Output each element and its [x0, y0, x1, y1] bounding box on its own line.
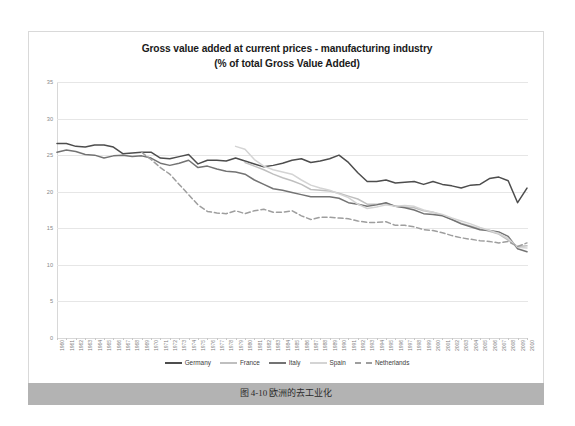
- x-axis-tick-label: 1965: [106, 340, 112, 351]
- x-axis-tick: [217, 338, 218, 340]
- x-axis-tick: [424, 338, 425, 340]
- series-lines: [57, 82, 528, 338]
- x-axis-tick-label: 1985: [294, 340, 300, 351]
- x-axis-tick-label: 2003: [463, 340, 469, 351]
- legend-swatch-spain: [310, 362, 327, 364]
- x-axis-tick: [471, 338, 472, 340]
- x-axis-tick-label: 1962: [78, 340, 84, 351]
- x-axis-tick: [254, 338, 255, 340]
- x-axis-tick-label: 1993: [369, 340, 375, 351]
- legend-swatch-germany: [165, 362, 182, 364]
- legend-label: Spain: [330, 359, 346, 366]
- x-axis-tick: [527, 338, 528, 340]
- x-axis-tick-label: 2008: [510, 340, 516, 351]
- x-axis-tick-label: 2007: [501, 340, 507, 351]
- chart-title: Gross value added at current prices - ma…: [29, 41, 545, 71]
- x-axis-tick: [123, 338, 124, 340]
- legend-swatch-france: [220, 362, 237, 364]
- legend-item-italy[interactable]: Italy: [269, 359, 301, 366]
- x-axis-tick-label: 1981: [257, 340, 263, 351]
- legend-label: Italy: [289, 359, 301, 366]
- x-axis-tick: [452, 338, 453, 340]
- x-axis-tick: [57, 338, 58, 340]
- x-axis-tick-label: 1964: [97, 340, 103, 351]
- x-axis-tick: [489, 338, 490, 340]
- x-axis-tick-label: 1967: [125, 340, 131, 351]
- y-axis-tick-label: 35: [47, 79, 53, 85]
- x-axis-tick-label: 1988: [322, 340, 328, 351]
- x-axis-tick: [113, 338, 114, 340]
- x-axis-tick-label: 2009: [520, 340, 526, 351]
- x-axis-tick-label: 1972: [172, 340, 178, 351]
- x-axis-tick: [433, 338, 434, 340]
- legend-item-france[interactable]: France: [220, 359, 260, 366]
- x-axis-tick: [151, 338, 152, 340]
- x-axis-tick-label: 1979: [238, 340, 244, 351]
- x-axis-tick: [76, 338, 77, 340]
- figure-caption: 图 4-10 欧洲的去工业化: [28, 386, 544, 399]
- x-axis-tick: [170, 338, 171, 340]
- x-axis-tick-label: 1994: [379, 340, 385, 351]
- x-axis-tick: [95, 338, 96, 340]
- x-axis-tick-label: 1970: [153, 340, 159, 351]
- x-axis-tick-label: 1986: [304, 340, 310, 351]
- legend-item-spain[interactable]: Spain: [310, 359, 346, 366]
- legend-label: Germany: [185, 359, 211, 366]
- x-axis-tick: [236, 338, 237, 340]
- x-axis-tick-label: 1977: [219, 340, 225, 351]
- legend-label: Netherlands: [375, 359, 409, 366]
- y-axis-tick-label: 5: [50, 298, 53, 304]
- legend-item-germany[interactable]: Germany: [165, 359, 211, 366]
- x-axis-tick-label: 1997: [407, 340, 413, 351]
- x-axis-tick-label: 1974: [191, 340, 197, 351]
- x-axis-tick-label: 1996: [398, 340, 404, 351]
- legend-label: France: [240, 359, 260, 366]
- x-axis-tick-label: 1963: [87, 340, 93, 351]
- x-axis-tick: [442, 338, 443, 340]
- y-axis-tick-label: 25: [47, 152, 53, 158]
- x-axis-tick: [330, 338, 331, 340]
- x-axis-tick: [301, 338, 302, 340]
- x-axis-tick: [386, 338, 387, 340]
- x-axis-tick: [311, 338, 312, 340]
- x-axis-tick: [518, 338, 519, 340]
- x-axis-tick: [207, 338, 208, 340]
- x-axis-tick: [339, 338, 340, 340]
- x-axis-tick-label: 1991: [351, 340, 357, 351]
- chart-title-line2: (% of total Gross Value Added): [29, 56, 545, 71]
- x-axis-tick: [292, 338, 293, 340]
- x-axis-tick-label: 1966: [116, 340, 122, 351]
- figure-container: Gross value added at current prices - ma…: [28, 31, 544, 392]
- x-axis-tick: [405, 338, 406, 340]
- x-axis-tick-label: 1992: [360, 340, 366, 351]
- series-line-netherlands: [142, 152, 527, 246]
- y-axis-tick-label: 10: [47, 262, 53, 268]
- x-axis-tick: [104, 338, 105, 340]
- x-axis-tick: [395, 338, 396, 340]
- x-axis-tick-label: 1975: [200, 340, 206, 351]
- x-axis-tick: [499, 338, 500, 340]
- legend-swatch-netherlands: [355, 362, 372, 364]
- x-axis-tick-label: 1968: [134, 340, 140, 351]
- series-line-spain: [236, 146, 527, 248]
- x-axis-tick-label: 1969: [144, 340, 150, 351]
- x-axis-tick-label: 1978: [228, 340, 234, 351]
- series-line-germany: [57, 143, 527, 202]
- x-axis-tick: [358, 338, 359, 340]
- x-axis-tick-label: 1960: [59, 340, 65, 351]
- x-axis-tick-label: 2010: [529, 340, 535, 351]
- x-axis-tick: [264, 338, 265, 340]
- x-axis-tick-label: 1989: [332, 340, 338, 351]
- legend-swatch-italy: [269, 362, 286, 364]
- y-axis-tick-label: 30: [47, 116, 53, 122]
- x-axis-tick-label: 1995: [388, 340, 394, 351]
- y-axis-tick-label: 20: [47, 189, 53, 195]
- x-axis-tick-label: 2002: [454, 340, 460, 351]
- plot-area: [57, 82, 528, 338]
- x-axis-tick-label: 2004: [473, 340, 479, 351]
- x-axis-tick-label: 1999: [426, 340, 432, 351]
- x-axis-tick-label: 1976: [210, 340, 216, 351]
- legend-item-netherlands[interactable]: Netherlands: [355, 359, 409, 366]
- x-axis-tick-label: 1961: [69, 340, 75, 351]
- x-axis-tick: [377, 338, 378, 340]
